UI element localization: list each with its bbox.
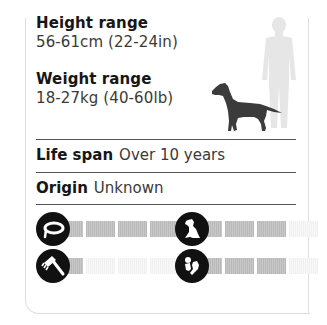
origin-row: OriginUnknown [36, 179, 164, 197]
divider [36, 172, 296, 173]
rating-bar [65, 221, 182, 237]
rating-bar [204, 258, 321, 274]
height-label: Height range [36, 14, 148, 32]
rating-segment-filled [257, 258, 286, 274]
sitting-dog-icon [175, 212, 209, 246]
origin-value: Unknown [94, 179, 164, 197]
divider [36, 139, 296, 140]
life-span-row: Life spanOver 10 years [36, 146, 225, 164]
weight-value: 18-27kg (40-60lb) [36, 89, 173, 107]
origin-label: Origin [36, 179, 88, 197]
life-span-label: Life span [36, 146, 113, 164]
collar-icon [36, 212, 70, 246]
rating-segment-empty [289, 258, 318, 274]
rating-segment-empty [86, 258, 115, 274]
dog-silhouette-icon [210, 81, 284, 133]
rating-segment-filled [257, 221, 286, 237]
weight-label: Weight range [36, 70, 151, 88]
child-with-dog-icon [175, 249, 209, 283]
life-span-value: Over 10 years [119, 146, 225, 164]
comb-icon [36, 249, 70, 283]
rating-bar [65, 258, 182, 274]
rating-family [175, 248, 321, 284]
rating-segment-filled [225, 258, 254, 274]
rating-segment-filled [118, 221, 147, 237]
rating-segment-filled [86, 221, 115, 237]
rating-training [175, 211, 321, 247]
height-value: 56-61cm (22-24in) [36, 33, 178, 51]
rating-bar [204, 221, 321, 237]
rating-grooming [36, 248, 182, 284]
rating-exercise [36, 211, 182, 247]
rating-segment-empty [118, 258, 147, 274]
divider [36, 204, 296, 205]
rating-segment-filled [225, 221, 254, 237]
rating-segment-empty [289, 221, 318, 237]
